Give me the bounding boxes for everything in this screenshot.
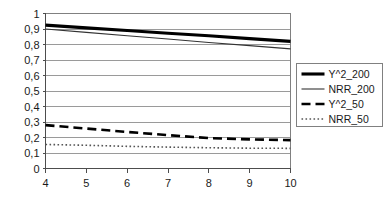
y-tick-label: 1: [33, 8, 39, 20]
x-tick-label: 5: [83, 177, 89, 189]
y-tick-label: 0,6: [24, 70, 39, 82]
x-axis-tick-labels: 45678910: [42, 177, 296, 189]
data-series-group: [46, 25, 291, 148]
legend-label-nrr-50: NRR_50: [329, 113, 369, 125]
chart-legend: Y^2_200NRR_200Y^2_50NRR_50: [297, 64, 383, 127]
line-chart: 00,10,20,30,40,50,60,70,80,91 45678910 Y…: [0, 0, 388, 209]
x-tick-label: 9: [247, 177, 253, 189]
x-axis-ticks: [46, 169, 291, 173]
y-tick-label: 0,4: [24, 101, 39, 113]
chart-container: 00,10,20,30,40,50,60,70,80,91 45678910 Y…: [0, 0, 388, 209]
series-line-nrr-50: [46, 144, 291, 148]
y-axis-tick-labels: 00,10,20,30,40,50,60,70,80,91: [24, 8, 39, 175]
y-tick-label: 0,7: [24, 54, 39, 66]
y-tick-label: 0,8: [24, 39, 39, 51]
y-tick-label: 0,9: [24, 23, 39, 35]
x-tick-label: 4: [42, 177, 48, 189]
x-tick-label: 8: [206, 177, 212, 189]
y-tick-label: 0,2: [24, 132, 39, 144]
x-tick-label: 6: [124, 177, 130, 189]
legend-label-nrr-200: NRR_200: [329, 83, 375, 95]
y-tick-label: 0: [33, 163, 39, 175]
legend-label-y-2-200: Y^2_200: [329, 68, 370, 80]
y-tick-label: 0,3: [24, 116, 39, 128]
y-tick-label: 0,5: [24, 85, 39, 97]
x-tick-label: 10: [284, 177, 296, 189]
y-tick-label: 0,1: [24, 147, 39, 159]
legend-label-y-2-50: Y^2_50: [329, 98, 364, 110]
x-tick-label: 7: [165, 177, 171, 189]
